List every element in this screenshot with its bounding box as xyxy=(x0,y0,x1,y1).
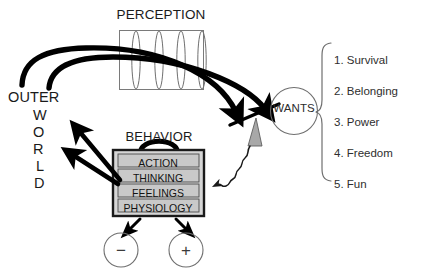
positive-sign-label: + xyxy=(168,241,204,261)
perception-title: PERCEPTION xyxy=(0,8,322,22)
outer-world-letter-w: W xyxy=(33,108,47,123)
outer-world-line-1: OUTER xyxy=(8,90,59,105)
need-item-4: 4. Freedom xyxy=(334,147,393,159)
arrow-to-negative xyxy=(127,219,140,232)
outer-world-letter-r: R xyxy=(33,142,44,157)
behavior-label-feelings: FEELINGS xyxy=(118,187,198,199)
outer-world-letter-o: O xyxy=(33,125,44,140)
behavior-title: BEHAVIOR xyxy=(95,130,223,143)
arrow-to-positive xyxy=(176,219,189,232)
wants-node-label: WANTS xyxy=(268,103,320,115)
need-item-2: 2. Belonging xyxy=(334,85,398,97)
outer-world-letter-l: L xyxy=(36,159,44,174)
behavior-label-physiology: PHYSIOLOGY xyxy=(118,202,198,214)
outer-world-letter-d: D xyxy=(34,176,45,191)
need-item-5: 5. Fun xyxy=(334,178,367,190)
valence-arrows xyxy=(127,219,189,232)
need-item-3: 3. Power xyxy=(334,116,379,128)
triangle-fulcrum-icon xyxy=(248,118,262,146)
need-item-1: 1. Survival xyxy=(334,54,388,66)
behavior-label-thinking: THINKING xyxy=(118,172,198,184)
wavy-arrow-icon xyxy=(216,146,250,186)
diagram-canvas: PERCEPTION BEHAVIOR WANTS OUTER W O R L … xyxy=(0,0,425,275)
negative-sign-label: − xyxy=(103,241,139,261)
behavior-label-action: ACTION xyxy=(118,157,198,169)
lens-ellipse-icon xyxy=(177,31,185,89)
